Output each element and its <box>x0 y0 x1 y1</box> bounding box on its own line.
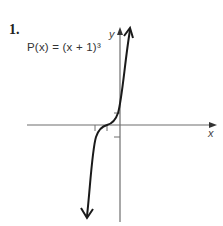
x-axis-label: x <box>207 127 214 139</box>
graph: y x <box>0 0 223 226</box>
curve-p-of-x <box>81 28 133 218</box>
y-axis-label: y <box>108 28 116 40</box>
x-axis <box>27 122 217 128</box>
